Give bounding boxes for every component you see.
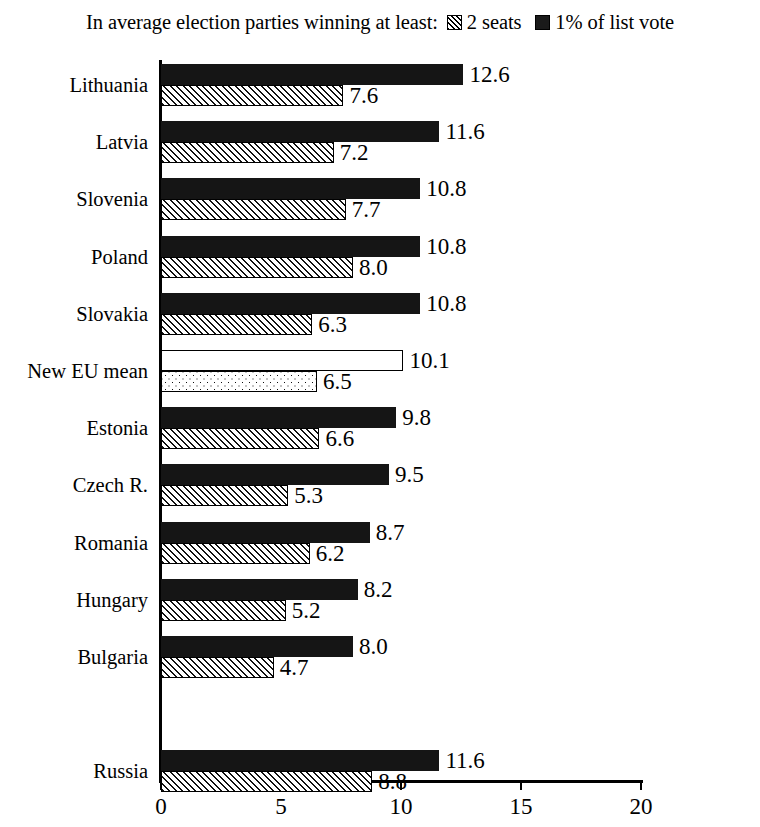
value-label-1pct-of-list-vote: 11.6 — [439, 750, 484, 771]
bar-1pct-of-list-vote — [161, 750, 439, 771]
value-label-2-seats: 7.2 — [334, 142, 369, 163]
category-label-latvia: Latvia — [0, 132, 148, 153]
value-label-2-seats: 6.2 — [310, 543, 345, 564]
bar-2-seats — [161, 257, 353, 278]
bar-1pct-of-list-vote — [161, 579, 358, 600]
value-label-1pct-of-list-vote: 8.0 — [353, 636, 388, 657]
x-axis-label-15: 15 — [481, 794, 561, 820]
bar-1pct-of-list-vote — [161, 522, 370, 543]
bar-2-seats — [161, 485, 288, 506]
value-label-2-seats: 7.6 — [343, 85, 378, 106]
bar-1pct-of-list-vote — [161, 407, 396, 428]
legend-label-1pct-vote: 1% of list vote — [555, 11, 674, 34]
value-label-2-seats: 5.3 — [288, 485, 323, 506]
solid-square-icon — [535, 15, 550, 30]
category-label-romania: Romania — [0, 533, 148, 554]
bar-group-bulgaria: Bulgaria8.04.7 — [0, 636, 760, 678]
bar-1pct-of-list-vote — [161, 178, 420, 199]
category-label-bulgaria: Bulgaria — [0, 647, 148, 668]
value-label-2-seats: 6.5 — [317, 371, 352, 392]
bar-2-seats — [161, 771, 372, 792]
category-label-russia: Russia — [0, 761, 148, 782]
bar-2-seats — [161, 371, 317, 392]
bar-group-lithuania: Lithuania12.67.6 — [0, 64, 760, 106]
bar-group-latvia: Latvia11.67.2 — [0, 121, 760, 163]
value-label-2-seats: 6.6 — [319, 428, 354, 449]
bar-group-russia: Russia11.68.8 — [0, 750, 760, 792]
value-label-1pct-of-list-vote: 8.2 — [358, 579, 393, 600]
bar-2-seats — [161, 428, 319, 449]
legend-entry-1pct-vote: 1% of list vote — [535, 11, 674, 34]
value-label-1pct-of-list-vote: 8.7 — [370, 522, 405, 543]
x-axis-label-20: 20 — [601, 794, 681, 820]
chart-legend: In average election parties winning at l… — [0, 0, 760, 44]
bar-group-poland: Poland10.88.0 — [0, 236, 760, 278]
bar-2-seats — [161, 142, 334, 163]
x-axis-label-5: 5 — [241, 794, 321, 820]
value-label-2-seats: 5.2 — [286, 600, 321, 621]
value-label-1pct-of-list-vote: 11.6 — [439, 121, 484, 142]
bar-group-hungary: Hungary8.25.2 — [0, 579, 760, 621]
bar-2-seats — [161, 314, 312, 335]
bar-1pct-of-list-vote — [161, 64, 463, 85]
value-label-2-seats: 8.8 — [372, 771, 407, 792]
value-label-1pct-of-list-vote: 10.1 — [403, 350, 449, 371]
bar-1pct-of-list-vote — [161, 636, 353, 657]
value-label-2-seats: 6.3 — [312, 314, 347, 335]
bar-group-czech-r: Czech R.9.55.3 — [0, 464, 760, 506]
bar-group-slovakia: Slovakia10.86.3 — [0, 293, 760, 335]
bar-1pct-of-list-vote — [161, 293, 420, 314]
bar-group-estonia: Estonia9.86.6 — [0, 407, 760, 449]
value-label-2-seats: 4.7 — [274, 657, 309, 678]
value-label-2-seats: 7.7 — [346, 199, 381, 220]
category-label-czech-r: Czech R. — [0, 475, 148, 496]
category-label-slovakia: Slovakia — [0, 304, 148, 325]
legend-label-2-seats: 2 seats — [467, 11, 522, 34]
value-label-2-seats: 8.0 — [353, 257, 388, 278]
value-label-1pct-of-list-vote: 10.8 — [420, 293, 466, 314]
value-label-1pct-of-list-vote: 12.6 — [463, 64, 509, 85]
value-label-1pct-of-list-vote: 9.8 — [396, 407, 431, 428]
bar-2-seats — [161, 543, 310, 564]
bar-group-romania: Romania8.76.2 — [0, 522, 760, 564]
bar-group-slovenia: Slovenia10.87.7 — [0, 178, 760, 220]
bar-group-new-eu-mean: New EU mean10.16.5 — [0, 350, 760, 392]
legend-title: In average election parties winning at l… — [86, 11, 438, 34]
x-axis-label-0: 0 — [121, 794, 201, 820]
legend-entry-2-seats: 2 seats — [447, 11, 522, 34]
hatch-square-icon — [447, 15, 462, 30]
value-label-1pct-of-list-vote: 10.8 — [420, 236, 466, 257]
x-axis-label-10: 10 — [361, 794, 441, 820]
category-label-slovenia: Slovenia — [0, 189, 148, 210]
bar-2-seats — [161, 600, 286, 621]
category-label-new-eu-mean: New EU mean — [0, 361, 148, 382]
category-label-estonia: Estonia — [0, 418, 148, 439]
bar-chart-plot-area: 0 5 10 15 20 Lithuania12.67.6Latvia11.67… — [0, 44, 760, 827]
bar-2-seats — [161, 657, 274, 678]
category-label-lithuania: Lithuania — [0, 75, 148, 96]
bar-1pct-of-list-vote — [161, 350, 403, 371]
bar-1pct-of-list-vote — [161, 464, 389, 485]
bar-2-seats — [161, 199, 346, 220]
value-label-1pct-of-list-vote: 10.8 — [420, 178, 466, 199]
category-label-hungary: Hungary — [0, 590, 148, 611]
category-label-poland: Poland — [0, 247, 148, 268]
value-label-1pct-of-list-vote: 9.5 — [389, 464, 424, 485]
bar-1pct-of-list-vote — [161, 121, 439, 142]
bar-2-seats — [161, 85, 343, 106]
bar-1pct-of-list-vote — [161, 236, 420, 257]
